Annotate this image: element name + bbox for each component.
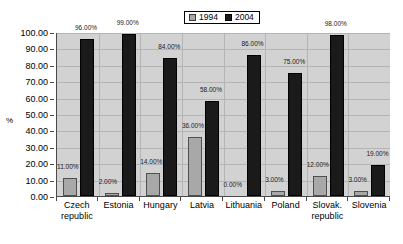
x-axis-category-label: Lithuania	[223, 200, 265, 222]
bar-value-label: 84.00%	[158, 43, 180, 50]
bar-value-label: 12.00%	[307, 161, 329, 168]
legend-swatch-icon-2004	[225, 14, 232, 21]
bar-2004[interactable]	[163, 58, 177, 196]
x-axis-category-label: Slovak.republic	[307, 200, 349, 222]
bar-2004[interactable]	[371, 165, 385, 196]
x-axis-category-label-line: Slovenia	[348, 200, 390, 211]
x-axis-category-label-line: Latvia	[181, 200, 223, 211]
chart-legend: 1994 2004	[184, 11, 260, 24]
legend-label-1994: 1994	[199, 13, 218, 22]
bar-1994[interactable]	[63, 178, 77, 196]
bar-1994[interactable]	[354, 191, 368, 196]
x-axis-category-label-line: Czech	[56, 200, 98, 211]
bar-2004[interactable]	[330, 35, 344, 196]
y-axis-tick-mark	[50, 82, 54, 83]
bar-value-label: 36.00%	[182, 122, 204, 129]
x-axis-category-label-line: Slovak.	[307, 200, 349, 211]
bar-group: 12.00%98.00%	[307, 33, 349, 196]
bar-value-label: 99.00%	[117, 19, 139, 26]
y-axis-tick-mark	[50, 131, 54, 132]
legend-swatch-icon-1994	[189, 14, 196, 21]
bar-value-label: 2.00%	[99, 178, 117, 185]
plot-area-wrapper: 11.00%96.00%2.00%99.00%14.00%84.00%36.00…	[56, 33, 390, 197]
bar-1994[interactable]	[105, 193, 119, 196]
x-axis-category-label-line: Lithuania	[223, 200, 265, 211]
y-axis-tick-mark	[50, 164, 54, 165]
y-axis-tick-labels: 100.0090.0080.0070.0060.0050.0040.0030.0…	[0, 33, 54, 197]
bar-2004[interactable]	[122, 34, 136, 196]
bar-2004[interactable]	[247, 55, 261, 196]
y-axis-tick-label: 50.00	[25, 110, 48, 120]
x-axis-category-labels: CzechrepublicEstoniaHungaryLatviaLithuan…	[56, 200, 390, 222]
y-axis-tick-mark	[50, 197, 54, 198]
bar-1994[interactable]	[188, 137, 202, 196]
bar-value-label: 96.00%	[75, 24, 97, 31]
x-axis-category-label: Czechrepublic	[56, 200, 98, 222]
bar-group: 14.00%84.00%	[140, 33, 182, 196]
x-axis-category-label-line: republic	[56, 211, 98, 222]
bar-chart: 1994 2004 % 100.0090.0080.0070.0060.0050…	[0, 0, 403, 244]
bar-value-label: 3.00%	[348, 176, 366, 183]
legend-entry-1994: 1994	[189, 13, 218, 22]
bar-value-label: 98.00%	[325, 20, 347, 27]
bar-group: 3.00%19.00%	[348, 33, 390, 196]
bar-value-label: 75.00%	[283, 58, 305, 65]
legend-entry-2004: 2004	[225, 13, 254, 22]
y-axis-tick-label: 60.00	[25, 94, 48, 104]
bar-value-label: 3.00%	[265, 176, 283, 183]
bar-1994[interactable]	[146, 173, 160, 196]
bar-1994[interactable]	[313, 176, 327, 196]
x-axis-category-label-line: Estonia	[98, 200, 140, 211]
legend-label-2004: 2004	[235, 13, 254, 22]
y-axis-tick-label: 20.00	[25, 159, 48, 169]
y-axis-tick-label: 10.00	[25, 176, 48, 186]
y-axis-tick-label: 90.00	[25, 44, 48, 54]
x-axis-category-label-line: republic	[307, 211, 349, 222]
bar-value-label: 86.00%	[242, 40, 264, 47]
y-axis-tick-mark	[50, 33, 54, 34]
bar-value-label: 0.00%	[224, 181, 242, 188]
bar-group: 3.00%75.00%	[265, 33, 307, 196]
bar-2004[interactable]	[205, 101, 219, 196]
x-axis-category-label: Slovenia	[348, 200, 390, 222]
y-axis-tick-label: 80.00	[25, 61, 48, 71]
y-axis-tick-label: 70.00	[25, 77, 48, 87]
y-axis-tick-mark	[50, 181, 54, 182]
y-axis-tick-label: 100.00	[20, 28, 48, 38]
bar-2004[interactable]	[80, 39, 94, 196]
bar-value-label: 19.00%	[366, 150, 388, 157]
y-axis-tick-mark	[50, 66, 54, 67]
x-axis-category-label-line: Hungary	[140, 200, 182, 211]
x-axis-category-label: Poland	[265, 200, 307, 222]
y-axis-tick-label: 30.00	[25, 143, 48, 153]
y-axis-tick-mark	[50, 49, 54, 50]
bar-group: 11.00%96.00%	[57, 33, 99, 196]
plot-area: 11.00%96.00%2.00%99.00%14.00%84.00%36.00…	[56, 33, 390, 197]
bar-group: 36.00%58.00%	[182, 33, 224, 196]
bar-group: 0.00%86.00%	[224, 33, 266, 196]
bar-value-label: 11.00%	[57, 163, 79, 170]
bar-value-label: 14.00%	[140, 158, 162, 165]
x-axis-category-label: Hungary	[140, 200, 182, 222]
y-axis-tick-label: 40.00	[25, 126, 48, 136]
y-axis-tick-mark	[50, 99, 54, 100]
y-axis-tick-mark	[50, 115, 54, 116]
bar-group: 2.00%99.00%	[99, 33, 141, 196]
x-axis-category-label-line: Poland	[265, 200, 307, 211]
bar-1994[interactable]	[271, 191, 285, 196]
bar-value-label: 58.00%	[200, 86, 222, 93]
y-axis-tick-label: 0.00	[30, 192, 48, 202]
x-axis-category-label: Estonia	[98, 200, 140, 222]
bar-2004[interactable]	[288, 73, 302, 196]
y-axis-tick-mark	[50, 148, 54, 149]
bar-groups: 11.00%96.00%2.00%99.00%14.00%84.00%36.00…	[57, 33, 390, 196]
x-axis-category-label: Latvia	[181, 200, 223, 222]
